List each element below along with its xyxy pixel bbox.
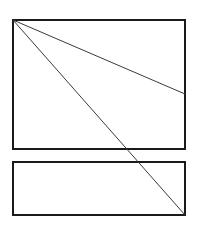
diagram-canvas xyxy=(0,0,198,229)
bottom-rectangle xyxy=(13,162,185,215)
shallow-diagonal-line xyxy=(13,20,185,94)
diagram-svg xyxy=(0,0,198,229)
steep-diagonal-line xyxy=(13,20,185,215)
top-rectangle xyxy=(13,20,185,149)
